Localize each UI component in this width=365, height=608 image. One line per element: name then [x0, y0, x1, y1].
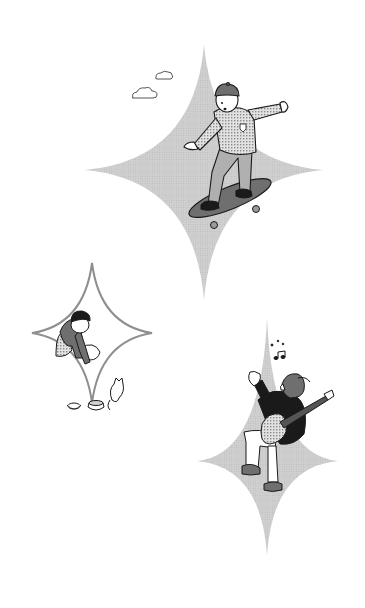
music-notes-icon — [271, 340, 285, 359]
cat-icon — [110, 378, 123, 402]
cat-feeder-panel — [32, 263, 152, 410]
sparkle-star-large — [85, 45, 323, 300]
skater-panel — [85, 45, 323, 300]
cloud-icon — [132, 71, 172, 98]
guitarist-panel — [197, 318, 338, 555]
illustration-canvas — [0, 0, 365, 608]
sparkle-star-outline — [32, 263, 152, 403]
